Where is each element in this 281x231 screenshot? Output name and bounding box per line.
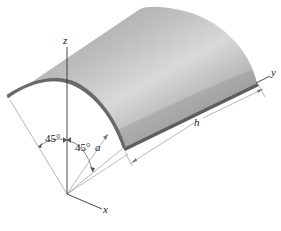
cylindrical-shell: [7, 7, 259, 151]
radius-label: a: [95, 141, 101, 153]
radius-arrowhead: [103, 134, 108, 140]
length-label: h: [194, 116, 200, 128]
y-axis-visible: [256, 76, 270, 83]
cylindrical-shell-diagram: z y x 45° 45° a h: [0, 0, 281, 231]
left-angle-label: 45°: [45, 132, 60, 144]
y-axis-label: y: [270, 66, 276, 78]
z-axis-label: z: [62, 34, 68, 46]
x-axis-label: x: [102, 203, 108, 215]
right-angle-label: 45°: [75, 141, 90, 153]
x-axis: [67, 194, 102, 209]
